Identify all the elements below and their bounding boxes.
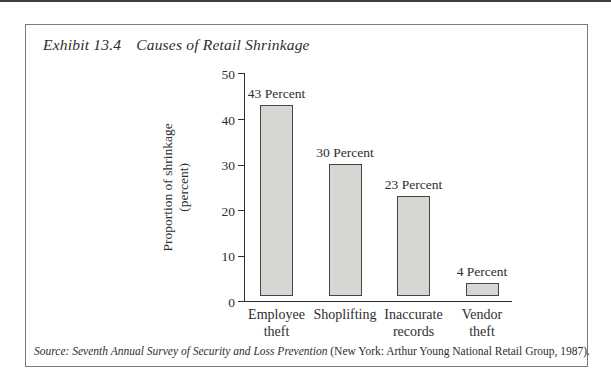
exhibit-title: Exhibit 13.4Causes of Retail Shrinkage	[43, 36, 310, 54]
plot-area: 0102030405043 PercentEmployeetheft30 Per…	[244, 74, 512, 302]
y-tick-label-50: 50	[205, 68, 235, 82]
exhibit-title-text: Causes of Retail Shrinkage	[136, 36, 310, 53]
bar-value-label-employee-theft: 43 Percent	[222, 87, 332, 101]
y-tick-mark-10	[238, 256, 245, 257]
y-tick-mark-30	[238, 165, 245, 166]
y-tick-label-10: 10	[205, 250, 235, 264]
bar-inaccurate-records	[397, 196, 430, 296]
y-axis-title-line1: Proportion of shrinkage	[160, 107, 176, 267]
y-tick-mark-0	[238, 301, 245, 302]
y-tick-label-30: 30	[205, 159, 235, 173]
bar-vendor-theft	[466, 283, 499, 296]
y-tick-mark-20	[238, 210, 245, 211]
page-top-rule	[0, 0, 611, 2]
y-axis-title: Proportion of shrinkage (percent)	[160, 107, 193, 267]
bar-value-label-shoplifting: 30 Percent	[290, 146, 400, 160]
y-tick-mark-40	[238, 119, 245, 120]
bar-value-label-vendor-theft: 4 Percent	[427, 265, 537, 279]
source-title: Source: Seventh Annual Survey of Securit…	[34, 345, 327, 357]
y-tick-label-20: 20	[205, 205, 235, 219]
exhibit-frame: Exhibit 13.4Causes of Retail Shrinkage P…	[25, 24, 588, 367]
scanned-page: Exhibit 13.4Causes of Retail Shrinkage P…	[0, 0, 611, 387]
y-tick-label-40: 40	[205, 114, 235, 128]
bar-value-label-inaccurate-records: 23 Percent	[359, 178, 469, 192]
bar-shoplifting	[329, 164, 362, 296]
y-axis-title-line2: (percent)	[176, 107, 192, 267]
x-category-label-vendor-theft: Vendortheft	[427, 307, 537, 340]
source-publisher: (New York: Arthur Young National Retail …	[327, 345, 590, 357]
exhibit-number: Exhibit 13.4	[43, 36, 121, 53]
bar-employee-theft	[260, 105, 293, 296]
source-line: Source: Seventh Annual Survey of Securit…	[34, 345, 582, 357]
y-tick-mark-50	[238, 73, 245, 74]
